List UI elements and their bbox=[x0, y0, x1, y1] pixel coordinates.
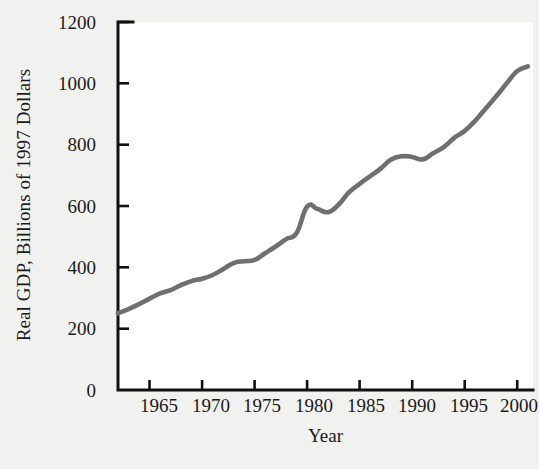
gdp-line-chart-figure: Real GDP, Billions of 1997 Dollars 1200 … bbox=[0, 0, 539, 469]
plot-background bbox=[118, 22, 533, 390]
plot-area bbox=[0, 0, 539, 469]
